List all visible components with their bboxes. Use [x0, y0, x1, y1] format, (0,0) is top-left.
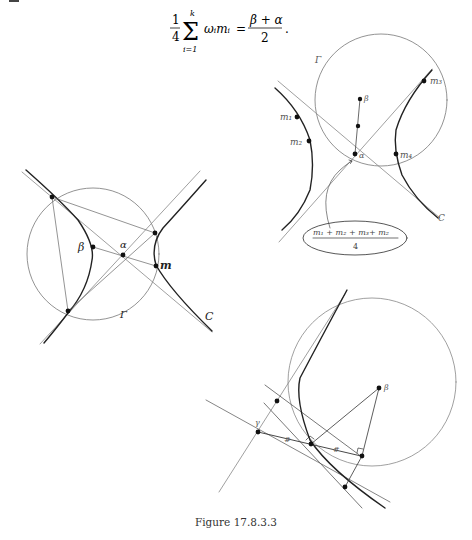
point [66, 309, 71, 314]
callout-numerator: m₁ + m₂ + m₃+ m₂ [313, 228, 389, 237]
circle-gamma-top [315, 34, 447, 166]
point-alpha-top [353, 152, 358, 157]
point [275, 399, 280, 404]
label-gamma-top: Γ [314, 55, 322, 65]
hyperbola-right-branch [154, 180, 212, 331]
point-m4 [394, 152, 399, 157]
point [343, 485, 348, 490]
equal-length-mark-2: # [333, 445, 340, 454]
point [50, 195, 55, 200]
point [153, 231, 158, 236]
equal-length-mark-1: # [284, 435, 291, 444]
point-beta-bottom [377, 386, 382, 391]
label-curve-top: C [438, 213, 445, 223]
label-gamma-bottom: γ [255, 418, 260, 427]
point-beta-top [358, 97, 362, 101]
label-beta-bottom: β [383, 383, 389, 392]
figure-caption: Figure 17.8.3.3 [0, 516, 472, 528]
label-gamma-left: Γ [119, 309, 128, 320]
label-alpha-left: α [120, 239, 127, 250]
figure-17-8-3-3: β α m Γ C Γ β α m₁ m₂ m₃ m₄ C m₁ + m₂ + … [0, 0, 472, 540]
line-through-gamma [219, 294, 345, 492]
label-m2: m₂ [290, 137, 303, 147]
left-figure [22, 170, 212, 344]
label-beta-top: β [363, 94, 369, 103]
point-m2 [307, 139, 312, 144]
point [309, 442, 314, 447]
point-m [154, 264, 159, 269]
label-curve-left: C [205, 310, 214, 323]
hyperbola-top-right [395, 70, 438, 218]
point-m3 [422, 79, 427, 84]
point [360, 454, 365, 459]
hyperbola-top-left [275, 88, 313, 230]
point-beta [91, 245, 96, 250]
bottom-right-figure [206, 290, 456, 508]
circle-bottom [288, 298, 456, 466]
label-m4: m₄ [400, 150, 413, 160]
label-m1: m₁ [280, 112, 292, 122]
label-alpha-top: α [359, 151, 365, 160]
hyperbola-bottom [299, 290, 385, 508]
hyperbola-left-branch [26, 170, 92, 343]
point-gamma [256, 430, 261, 435]
label-beta-left: β [77, 241, 84, 254]
point-alpha [121, 253, 126, 258]
callout-denominator: 4 [353, 242, 358, 251]
asymptote-top-1 [278, 81, 440, 218]
point-m1 [295, 115, 300, 120]
label-m-left: m [160, 259, 172, 272]
callout-arrow [326, 161, 352, 228]
point-centroid [356, 124, 360, 128]
label-m3: m₃ [430, 76, 443, 86]
